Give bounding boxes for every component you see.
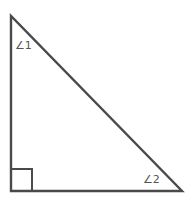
right-angle-marker <box>11 169 32 191</box>
angle-1-label: ∠1 <box>15 39 32 52</box>
triangle <box>11 16 182 191</box>
angle-2-label: ∠2 <box>143 173 160 186</box>
right-triangle-diagram: ∠1 ∠2 <box>0 0 192 202</box>
